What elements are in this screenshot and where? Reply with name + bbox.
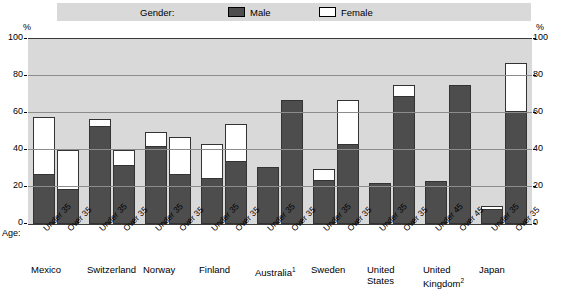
y-tickmark-l-80 <box>24 75 27 76</box>
country-label-sweden: Sweden <box>311 264 345 275</box>
y-tick-r-40: 40 <box>533 143 559 153</box>
legend-label-female: Female <box>341 7 373 18</box>
legend-label-male: Male <box>250 7 271 18</box>
gridline-20 <box>28 186 532 187</box>
legend-item-male: Male <box>228 7 271 18</box>
y-tickmark-l-0 <box>24 223 27 224</box>
country-label-united-states: UnitedStates <box>367 264 394 286</box>
country-label-switzerland: Switzerland <box>87 264 136 275</box>
y-tickmark-r-80 <box>533 75 536 76</box>
country-label-finland: Finland <box>199 264 230 275</box>
bar-japan-over-35 <box>505 63 527 224</box>
y-tick-l-100: 100 <box>0 32 23 42</box>
y-tickmark-l-40 <box>24 149 27 150</box>
gridline-60 <box>28 112 532 113</box>
male-swatch-icon <box>228 7 245 17</box>
plot-area <box>28 38 532 224</box>
bar-mexico-under-35 <box>33 117 55 224</box>
y-tickmark-l-60 <box>24 112 27 113</box>
y-tick-r-0: 0 <box>533 217 559 227</box>
y-tick-r-20: 20 <box>533 180 559 190</box>
country-footnote-marker: 2 <box>461 277 465 284</box>
bar-switzerland-under-35 <box>89 119 111 224</box>
gridline-80 <box>28 75 532 76</box>
y-tick-l-40: 40 <box>0 143 23 153</box>
bars-layer <box>28 39 532 224</box>
y-tick-l-80: 80 <box>0 69 23 79</box>
country-label-japan: Japan <box>479 264 505 275</box>
country-label-united-kingdom: UnitedKingdom2 <box>423 264 464 289</box>
y-tick-r-80: 80 <box>533 69 559 79</box>
y-tickmark-l-20 <box>24 186 27 187</box>
age-axis-label: Age: <box>2 228 21 238</box>
gridline-40 <box>28 149 532 150</box>
country-label-norway: Norway <box>143 264 175 275</box>
female-swatch-icon <box>319 7 336 17</box>
country-footnote-marker: 1 <box>292 266 296 273</box>
chart-root: Gender: Male Female % % 0020204040606080… <box>0 0 566 302</box>
y-tickmark-r-100 <box>533 38 536 39</box>
y-tick-l-60: 60 <box>0 106 23 116</box>
y-axis-unit-left: % <box>23 22 31 32</box>
y-tickmark-r-0 <box>533 223 536 224</box>
y-axis-unit-right: % <box>536 22 544 32</box>
y-tick-l-0: 0 <box>0 217 23 227</box>
y-tick-r-60: 60 <box>533 106 559 116</box>
y-tickmark-r-40 <box>533 149 536 150</box>
country-label-australia: Australia1 <box>255 264 296 278</box>
country-label-mexico: Mexico <box>31 264 61 275</box>
legend-title: Gender: <box>140 7 174 18</box>
legend-item-female: Female <box>319 7 373 18</box>
bar-segment-male <box>89 126 111 224</box>
y-tick-r-100: 100 <box>533 32 559 42</box>
y-tick-l-20: 20 <box>0 180 23 190</box>
legend: Gender: Male Female <box>57 3 531 21</box>
y-tickmark-r-20 <box>533 186 536 187</box>
y-tickmark-l-100 <box>24 38 27 39</box>
y-tickmark-r-60 <box>533 112 536 113</box>
